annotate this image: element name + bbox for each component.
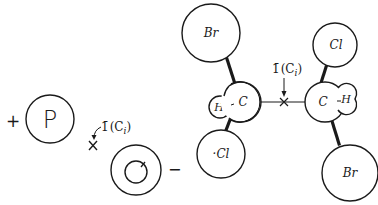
atom-right-h-label: H	[340, 93, 351, 106]
symmetry-label-molecule: 1̄(Ci)	[272, 62, 302, 78]
arrowhead-icon	[92, 135, 97, 140]
atom-right-br-label: Br	[342, 166, 359, 180]
inversion-symmetry-diagram: + P 1̄(Ci) − Br ·Cl H	[0, 0, 378, 205]
atom-right-cl-label: Cl	[329, 38, 342, 52]
bond-right-c-br	[330, 119, 341, 146]
outer-ring	[111, 145, 161, 195]
p-circle-label: P	[43, 106, 57, 134]
atom-left-cl-label: ·Cl	[213, 147, 230, 161]
symmetry-label-left: 1̄(Ci)	[101, 120, 131, 136]
inversion-center-icon	[89, 141, 97, 150]
atom-left-br-label: Br	[203, 26, 220, 40]
minus-sign: −	[168, 160, 181, 179]
plus-charge-group: + P	[6, 95, 74, 143]
minus-charge-group: −	[111, 145, 181, 195]
atom-right-c-label: C	[318, 95, 327, 109]
atom-left-c-label: C	[238, 95, 247, 109]
arrowhead-icon	[282, 91, 287, 97]
inversion-center-left: 1̄(Ci)	[89, 120, 131, 150]
bond-left-c-br	[225, 57, 237, 86]
molecule: Br ·Cl H C 1̄(Ci) Cl Br H	[182, 4, 378, 201]
plus-sign: +	[6, 111, 20, 131]
